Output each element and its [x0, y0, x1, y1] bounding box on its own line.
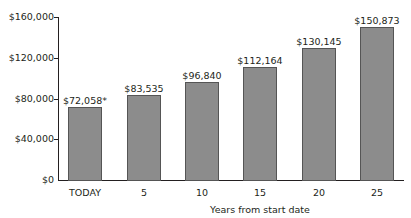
category-label: 10	[172, 187, 232, 198]
value-label: $130,145	[284, 36, 354, 47]
y-tick-label: $40,000	[15, 134, 54, 144]
category-label: 15	[230, 187, 290, 198]
y-tick-label: $0	[42, 175, 54, 185]
y-tick	[54, 58, 59, 59]
y-tick	[54, 17, 59, 18]
y-tick-label: $120,000	[9, 53, 54, 63]
category-label: 25	[347, 187, 407, 198]
bar-20	[302, 48, 336, 181]
value-label: $83,535	[109, 83, 179, 94]
bar-5	[127, 95, 161, 181]
value-label: $72,058*	[50, 95, 120, 106]
bar-today	[68, 107, 102, 181]
category-label: TODAY	[55, 187, 115, 198]
value-label: $112,164	[225, 55, 295, 66]
x-axis	[58, 180, 404, 181]
category-label: 20	[289, 187, 349, 198]
bar-15	[243, 67, 277, 181]
bar-25	[360, 27, 394, 181]
bar-10	[185, 82, 219, 181]
y-tick-label: $160,000	[9, 12, 54, 22]
value-label: $96,840	[167, 70, 237, 81]
value-label: $150,873	[342, 15, 411, 26]
y-tick	[54, 139, 59, 140]
x-axis-title: Years from start date	[160, 204, 360, 215]
category-label: 5	[114, 187, 174, 198]
y-tick-label: $80,000	[15, 94, 54, 104]
